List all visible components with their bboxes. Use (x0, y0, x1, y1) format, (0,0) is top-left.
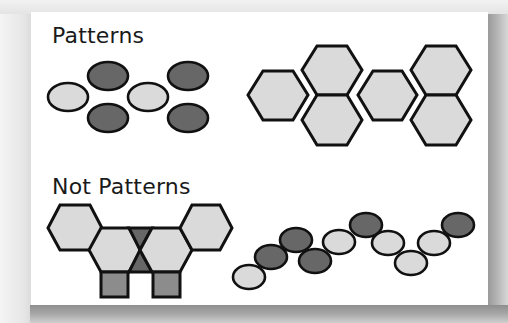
medium-square-shape (153, 272, 180, 297)
ellipse-pattern (48, 62, 208, 132)
light-hexagon-shape (302, 46, 362, 95)
dark-ellipse-shape (255, 245, 287, 269)
light-ellipse-shape (233, 265, 265, 289)
ellipse-zigzag-arrangement (233, 213, 474, 289)
shapes-diagram (0, 0, 508, 323)
dark-ellipse-shape (88, 104, 128, 132)
dark-ellipse-shape (442, 213, 474, 237)
medium-square-shape (101, 272, 128, 297)
dark-ellipse-shape (168, 104, 208, 132)
light-hexagon-shape (358, 71, 417, 120)
light-ellipse-shape (128, 83, 168, 111)
light-hexagon-shape (411, 46, 471, 95)
dark-ellipse-shape (299, 249, 331, 273)
light-hexagon-shape (302, 95, 362, 145)
light-ellipse-shape (395, 251, 427, 275)
light-ellipse-shape (48, 83, 88, 111)
light-hexagon-shape (248, 71, 308, 120)
hexagon-square-triangle-arrangement (48, 205, 232, 297)
dark-ellipse-shape (280, 228, 312, 252)
light-ellipse-shape (418, 231, 450, 255)
hexagon-pattern (248, 46, 471, 145)
light-hexagon-shape (180, 205, 232, 250)
dark-ellipse-shape (168, 62, 208, 90)
light-ellipse-shape (372, 231, 404, 255)
dark-ellipse-shape (88, 62, 128, 90)
light-ellipse-shape (323, 230, 355, 254)
light-hexagon-shape (411, 95, 471, 145)
